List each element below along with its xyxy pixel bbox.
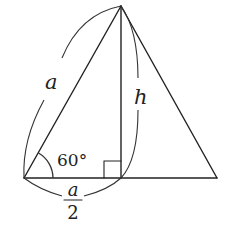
side-a-brace-upper [62,6,121,58]
half-base-brace-right [84,178,121,196]
half-base-denominator: 2 [67,202,78,223]
half-base-brace-left [24,178,62,196]
height-brace-lower [121,110,138,178]
equilateral-triangle-diagram: a h 60° a 2 [0,0,232,245]
angle-label: 60° [57,150,87,170]
side-a-brace-lower [24,100,44,178]
side-a-label: a [45,70,58,94]
half-base-numerator: a [68,179,79,200]
right-angle-marker [104,161,121,178]
angle-arc [39,153,54,178]
height-brace-upper [121,6,138,78]
height-label: h [134,85,148,109]
